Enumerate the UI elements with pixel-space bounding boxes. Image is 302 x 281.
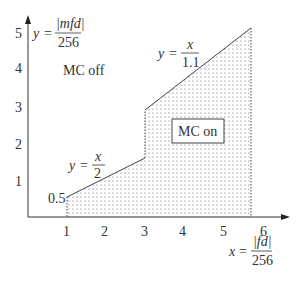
svg-text:=: = xyxy=(80,158,88,173)
svg-text:y: y xyxy=(156,46,165,61)
svg-text:|fd|: |fd| xyxy=(253,234,272,249)
svg-text:x: x xyxy=(186,37,194,52)
mc-off-label: MC off xyxy=(63,63,105,78)
mc-decision-diagram: 5 4 3 2 1 0.5 1 2 3 4 5 6 y = |mfd| 256 … xyxy=(0,0,302,281)
svg-text:2: 2 xyxy=(94,166,101,181)
y-tick-0-5: 0.5 xyxy=(48,191,66,206)
y-tick-4: 4 xyxy=(15,61,22,76)
svg-text:x: x xyxy=(94,149,102,164)
x-tick-1: 1 xyxy=(63,224,70,239)
y-tick-1: 1 xyxy=(15,174,22,189)
svg-text:|mfd|: |mfd| xyxy=(56,16,85,31)
y-tick-5: 5 xyxy=(15,26,22,41)
y-tick-3: 3 xyxy=(15,100,22,115)
x-tick-2: 2 xyxy=(101,224,108,239)
svg-text:256: 256 xyxy=(58,35,79,50)
svg-text:y: y xyxy=(31,26,40,41)
svg-text:=: = xyxy=(44,26,52,41)
svg-text:x: x xyxy=(228,244,236,259)
svg-text:=: = xyxy=(169,46,177,61)
y-tick-2: 2 xyxy=(15,137,22,152)
y-axis-arrow-icon xyxy=(25,15,31,24)
svg-text:=: = xyxy=(239,244,247,259)
x-tick-3: 3 xyxy=(141,224,148,239)
x-axis-arrow-icon xyxy=(281,214,290,220)
y-axis-label: y = |mfd| 256 xyxy=(31,16,85,50)
line-upper-label: y = x 1.1 xyxy=(156,37,200,70)
x-tick-5: 5 xyxy=(220,224,227,239)
svg-text:256: 256 xyxy=(252,253,273,268)
svg-text:1.1: 1.1 xyxy=(182,55,200,70)
x-axis-label: x = |fd| 256 xyxy=(228,234,273,268)
mc-on-label: MC on xyxy=(178,124,217,139)
line-lower-label: y = x 2 xyxy=(67,149,105,181)
x-tick-4: 4 xyxy=(179,224,186,239)
svg-text:y: y xyxy=(67,158,76,173)
